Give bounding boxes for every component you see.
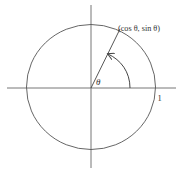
angle-label: θ: [96, 77, 101, 87]
point-label: (cos θ, sin θ): [118, 24, 160, 33]
radius-label: 1: [158, 93, 162, 103]
angle-arc-arrow-icon: [108, 54, 130, 88]
unit-circle-diagram: θ (cos θ, sin θ) 1: [0, 0, 186, 171]
